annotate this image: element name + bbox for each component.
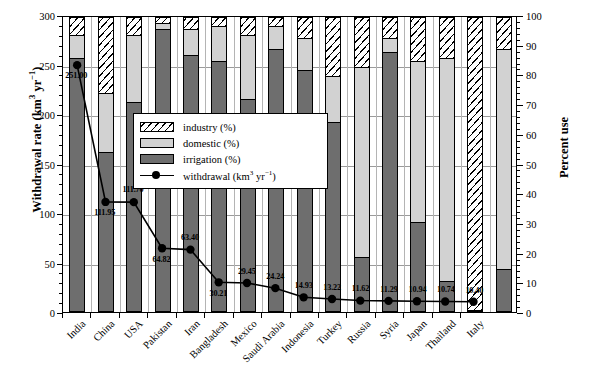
x-axis-tick-label[interactable]: Pakistan — [140, 318, 173, 351]
y2-axis-tick-label: 100 — [526, 11, 542, 22]
y2-axis-tick-label: 60 — [526, 129, 537, 140]
withdrawal-data-point[interactable] — [243, 279, 251, 287]
x-axis-tick-label[interactable]: Syria — [377, 318, 400, 341]
point-value-label: 251.00 — [65, 71, 87, 80]
x-axis-tick-label[interactable]: USA — [122, 318, 145, 341]
y2-axis-tick-mark — [517, 283, 523, 284]
withdrawal-data-point[interactable] — [158, 244, 166, 252]
chart-figure: Withdrawal rate (km3 yr−1) Percent use 0… — [0, 0, 595, 373]
withdrawal-data-point[interactable] — [469, 298, 477, 306]
x-axis-tick-label[interactable]: Italy — [465, 318, 486, 339]
y-axis-minor-tick — [59, 56, 62, 57]
withdrawal-data-point[interactable] — [101, 198, 109, 206]
point-value-label: 11.29 — [380, 285, 397, 294]
y-axis-tick-label: 150 — [0, 159, 55, 170]
y2-axis-tick-label: 20 — [526, 248, 537, 259]
y-axis-minor-tick — [59, 125, 62, 126]
y-axis-tick-mark — [57, 16, 62, 17]
y-axis-minor-tick — [59, 135, 62, 136]
y2-axis-tick-mark — [517, 313, 523, 314]
withdrawal-line-marker-icon — [140, 170, 174, 180]
withdrawal-data-point[interactable] — [73, 61, 81, 69]
y2-axis-minor-tick — [517, 248, 520, 249]
y-axis-tick-label: 0 — [0, 308, 55, 319]
legend-withdrawal-mid: yr — [253, 170, 264, 181]
x-axis-tick-label[interactable]: India — [65, 318, 88, 341]
point-value-label: 111.95 — [94, 208, 115, 217]
y-axis-minor-tick — [59, 303, 62, 304]
y-axis-minor-tick — [59, 105, 62, 106]
y2-axis-minor-tick — [517, 159, 520, 160]
legend-withdrawal-end: ) — [272, 170, 276, 181]
x-axis-tick-label[interactable]: Japan — [405, 318, 430, 343]
point-value-label: 24.24 — [266, 272, 284, 281]
legend-item-domestic: domestic (%) — [140, 135, 320, 151]
withdrawal-data-point[interactable] — [413, 297, 421, 305]
y2-axis-minor-tick — [517, 111, 520, 112]
y2-axis-minor-tick — [517, 40, 520, 41]
domestic-swatch-icon — [140, 138, 174, 148]
y-axis-minor-tick — [59, 184, 62, 185]
y-axis-tick-label: 250 — [0, 60, 55, 71]
x-axis-tick-mark — [119, 313, 120, 318]
x-axis-tick-label[interactable]: China — [91, 318, 117, 344]
y2-axis-minor-tick — [517, 52, 520, 53]
y2-axis-minor-tick — [517, 260, 520, 261]
legend-item-irrigation: irrigation (%) — [140, 151, 320, 167]
x-axis-tick-label[interactable]: Turkey — [315, 318, 344, 347]
x-axis-tick-label[interactable]: Thailand — [424, 318, 458, 352]
y-axis-minor-tick — [59, 283, 62, 284]
withdrawal-data-point[interactable] — [356, 296, 364, 304]
x-axis-tick-mark — [375, 313, 376, 318]
y2-axis-minor-tick — [517, 129, 520, 130]
withdrawal-data-point[interactable] — [328, 295, 336, 303]
x-axis-tick-mark — [460, 313, 461, 318]
y2-axis-minor-tick — [517, 289, 520, 290]
y-axis-minor-tick — [59, 254, 62, 255]
irrigation-swatch-icon — [140, 154, 174, 164]
y-axis-minor-tick — [59, 75, 62, 76]
y-axis-title-sup-3: 3 — [27, 95, 37, 99]
withdrawal-data-point[interactable] — [130, 198, 138, 206]
y2-axis-minor-tick — [517, 81, 520, 82]
withdrawal-data-point[interactable] — [384, 297, 392, 305]
y-axis-minor-tick — [59, 293, 62, 294]
withdrawal-data-point[interactable] — [441, 297, 449, 305]
y2-axis-tick-mark — [517, 224, 523, 225]
x-axis-tick-mark — [261, 313, 262, 318]
y-axis-minor-tick — [59, 204, 62, 205]
y2-axis-tick-label: 90 — [526, 40, 537, 51]
y-axis-minor-tick — [59, 224, 62, 225]
y2-axis-minor-tick — [517, 188, 520, 189]
withdrawal-data-point[interactable] — [271, 284, 279, 292]
y-axis-minor-tick — [59, 145, 62, 146]
y2-axis-tick-mark — [517, 165, 523, 166]
withdrawal-data-point[interactable] — [299, 293, 307, 301]
legend: industry (%) domestic (%) irrigation (%)… — [133, 113, 328, 189]
x-axis-tick-mark — [62, 313, 63, 318]
y-axis-title: Withdrawal rate (km3 yr−1) — [27, 15, 44, 265]
y2-axis-minor-tick — [517, 206, 520, 207]
y2-axis-tick-mark — [517, 194, 523, 195]
x-axis-tick-label[interactable]: Russia — [345, 318, 373, 346]
y2-axis-minor-tick — [517, 147, 520, 148]
y-axis-minor-tick — [59, 26, 62, 27]
y2-axis-title: Percent use — [557, 58, 572, 238]
withdrawal-data-point[interactable] — [186, 245, 194, 253]
y-axis-title-mid: yr — [30, 80, 44, 95]
y2-axis-minor-tick — [517, 99, 520, 100]
withdrawal-data-point[interactable] — [215, 278, 223, 286]
y2-axis-tick-label: 10 — [526, 278, 537, 289]
legend-withdrawal-main: withdrawal (km — [183, 170, 250, 181]
y2-axis-minor-tick — [517, 69, 520, 70]
y2-axis-minor-tick — [517, 301, 520, 302]
y2-axis-minor-tick — [517, 93, 520, 94]
y2-axis-minor-tick — [517, 34, 520, 35]
y2-axis-minor-tick — [517, 295, 520, 296]
x-axis-tick-label[interactable]: Iran — [182, 318, 202, 338]
point-value-label: 30.21 — [209, 289, 227, 298]
y2-axis-tick-mark — [517, 135, 523, 136]
y2-axis-minor-tick — [517, 218, 520, 219]
y2-axis-tick-mark — [517, 46, 523, 47]
y-axis-tick-mark — [57, 66, 62, 67]
